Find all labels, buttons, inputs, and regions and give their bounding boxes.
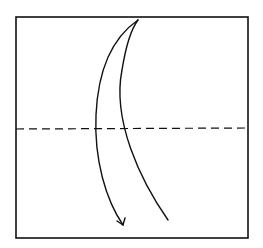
paper-square — [16, 17, 248, 238]
origami-diagram — [0, 0, 263, 248]
